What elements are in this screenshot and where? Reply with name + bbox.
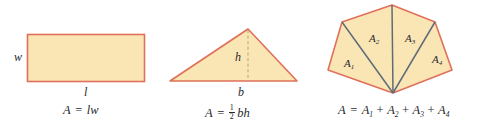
polygon-region-a1-sub: 1	[351, 63, 355, 71]
polygon-region-a4-label: A4	[432, 54, 442, 65]
rectangle-length-label: l	[84, 86, 87, 98]
polygon-region-a2-label: A2	[369, 33, 379, 44]
triangle-height-label: h	[235, 51, 241, 63]
triangle-area-formula: A = 1 2 b h	[205, 104, 250, 122]
polygon-formula-equals: =	[350, 104, 357, 117]
triangle-formula-equals: =	[217, 107, 224, 120]
polygon-formula-term-a1: A1	[362, 104, 373, 117]
polygon-formula-lhs: A	[338, 104, 346, 117]
polygon-formula-plus-3: +	[428, 104, 435, 117]
polygon-formula-term-a2: A2	[387, 104, 398, 117]
polygon-region-a2-base: A	[369, 32, 376, 44]
polygon-formula-term-a4: A4	[438, 104, 449, 117]
polygon-formula-term-a2-sub: 2	[395, 110, 399, 119]
polygon-region-a3-label: A3	[405, 33, 415, 44]
triangle-shape	[170, 29, 297, 81]
triangle-base-label: b	[238, 86, 244, 98]
polygon-region-a3-sub: 3	[412, 38, 416, 46]
triangle-formula-fraction-numerator: 1	[229, 104, 235, 112]
rectangle-shape	[28, 35, 145, 82]
polygon-formula-term-a4-sub: 4	[446, 110, 450, 119]
polygon-formula-term-a3-sub: 3	[420, 110, 424, 119]
polygon-region-a4-base: A	[432, 53, 439, 65]
rectangle-formula-lhs: A	[63, 104, 71, 117]
triangle-formula-term-h: h	[243, 107, 249, 120]
polygon-region-a4-sub: 4	[439, 59, 443, 67]
polygon-region-a1-base: A	[344, 57, 351, 69]
triangle-formula-lhs: A	[205, 107, 213, 120]
triangle-formula-fraction: 1 2	[229, 104, 235, 122]
rectangle-formula-equals: =	[75, 104, 82, 117]
polygon-formula-plus-2: +	[402, 104, 409, 117]
polygon-formula-plus-1: +	[377, 104, 384, 117]
polygon-shape	[328, 5, 452, 93]
polygon-formula-term-a4-base: A	[438, 103, 446, 117]
polygon-formula-term-a3: A3	[413, 104, 424, 117]
rectangle-width-label: w	[14, 51, 22, 63]
triangle-formula-fraction-denominator: 2	[229, 113, 235, 121]
geometry-figure: w l h b A1 A2 A3 A4 A = l w A = 1 2 b h …	[0, 0, 479, 127]
polygon-region-a3-base: A	[405, 32, 412, 44]
polygon-formula-term-a1-sub: 1	[369, 110, 373, 119]
polygon-diagonal-2	[392, 5, 393, 93]
polygon-region-a2-sub: 2	[376, 38, 380, 46]
rectangle-formula-term-w: w	[90, 104, 98, 117]
polygon-area-formula: A = A1 + A2 + A3 + A4	[338, 104, 449, 117]
polygon-formula-term-a2-base: A	[387, 103, 395, 117]
polygon-region-a1-label: A1	[344, 58, 354, 69]
rectangle-area-formula: A = l w	[63, 104, 99, 117]
